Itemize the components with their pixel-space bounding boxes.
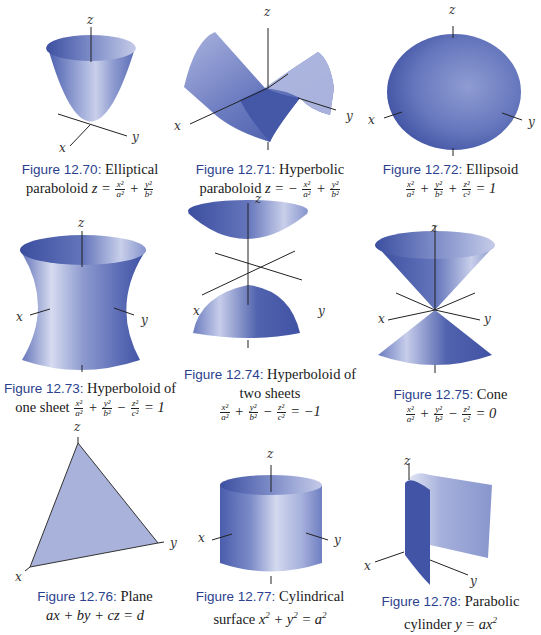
ellipsoid-graphic [360,0,541,160]
figure-caption: Figure 12.75: Cone x²a² + y²b² − z²c² = … [360,385,541,424]
hyperbolic-paraboloid-graphic [180,0,360,160]
figure-12-72: z y x Figure 12.72: Ellipsoid x²a² + y²b… [360,0,541,200]
axis-label-z: z [255,193,261,205]
hyperboloid-two-sheets-graphic [180,195,360,370]
axis-label-z: z [87,14,93,26]
axis-label-y: y [132,131,139,143]
figure-caption: Figure 12.78: Parabolic cylinder y = ax2 [360,592,541,633]
axis-label-y: y [334,534,341,546]
figure-number: Figure 12.76 [37,589,113,604]
figure-title: Plane [120,588,152,604]
axis-label-z: z [404,455,410,467]
axis-label-y: y [346,110,353,122]
axis-label-x: x [16,311,23,323]
figure-12-74: z y x Figure 12.74: Hyperboloid of two s… [180,195,360,410]
axis-label-z: z [431,222,437,234]
figure-12-71: z y x Figure 12.71: Hyperbolic paraboloi… [180,0,360,200]
axis-label-x: x [378,313,385,325]
equation: x2 + y2 = a2 [259,611,327,627]
axis-label-z: z [74,421,80,433]
cone-graphic [360,205,541,380]
figure-caption: Figure 12.73: Hyperboloid of one sheet x… [0,379,180,418]
figure-12-73: z y x Figure 12.73: Hyperboloid of one s… [0,205,180,410]
figure-caption: Figure 12.71: Hyperbolic paraboloid z = … [180,160,360,199]
axis-label-z: z [267,448,273,460]
figure-12-75: z y x Figure 12.75: Cone x²a² + y²b² − z… [360,205,541,410]
equation: x²a² + y²b² + z²c² = 1 [405,180,497,196]
figure-title: Elliptical [105,161,158,177]
figure-12-78: z y x Figure 12.78: Parabolic cylinder y… [360,425,541,625]
figure-number: Figure 12.70 [22,162,98,177]
figure-title: Hyperboloid of [87,380,176,396]
axis-label-z: z [264,6,270,18]
equation: z = x²a² + y²b² [92,180,154,196]
figure-title: Cylindrical [279,588,344,604]
figure-12-77: z y x Figure 12.77: Cylindrical surface … [180,430,360,625]
axis-label-y: y [484,313,491,325]
equation: x²a² + y²b² − z²c² = −1 [219,403,320,419]
axis-label-z: z [78,217,84,229]
figure-title: Cone [477,386,508,402]
figure-title: Hyperboloid of [267,366,356,382]
axis-label-y: y [170,537,177,549]
equation: x²a² + y²b² − z²c² = 0 [405,405,497,421]
axis-label-x: x [198,532,205,544]
axis-label-x: x [193,305,200,317]
figure-number: Figure 12.73 [4,381,80,396]
figure-caption: Figure 12.74: Hyperboloid of two sheets … [180,365,360,422]
figure-caption: Figure 12.72: Ellipsoid x²a² + y²b² + z²… [360,160,541,199]
equation: z = − x²a² + y²b² [265,180,341,196]
axis-label-y: y [470,575,477,587]
axis-label-x: x [174,120,181,132]
figure-number: Figure 12.71 [196,162,272,177]
figure-caption: Figure 12.77: Cylindrical surface x2 + y… [180,587,360,628]
figure-title: Ellipsoid [466,161,518,177]
figure-number: Figure 12.72 [383,162,459,177]
axis-label-x: x [364,560,371,572]
figure-number: Figure 12.75 [394,387,470,402]
axis-label-x: x [368,114,375,126]
figure-caption: Figure 12.76: Plane ax + by + cz = d [20,587,170,624]
axis-label-y: y [528,116,535,128]
figure-12-70: z y x Figure 12.70: Elliptical paraboloi… [0,0,180,200]
figure-number: Figure 12.77 [196,589,272,604]
hyperboloid-one-sheet-graphic [0,205,180,380]
figure-title: Parabolic [465,593,520,609]
axis-label-y: y [318,305,325,317]
figure-number: Figure 12.74 [184,367,260,382]
equation: ax + by + cz = d [46,607,144,623]
equation: x²a² + y²b² − z²c² = 1 [73,399,165,415]
parabolic-cylinder-graphic [360,425,541,590]
figure-12-76: z y x Figure 12.76: Plane ax + by + cz =… [0,425,190,625]
axis-label-x: x [59,142,66,154]
figure-title: Hyperbolic [279,161,344,177]
figure-caption: Figure 12.70: Elliptical paraboloid z = … [0,160,180,199]
plane-graphic [0,425,190,585]
equation: y = ax2 [455,616,497,632]
axis-label-z: z [449,4,455,16]
axis-label-y: y [141,314,148,326]
axis-label-x: x [15,571,22,583]
figure-number: Figure 12.78 [382,594,458,609]
